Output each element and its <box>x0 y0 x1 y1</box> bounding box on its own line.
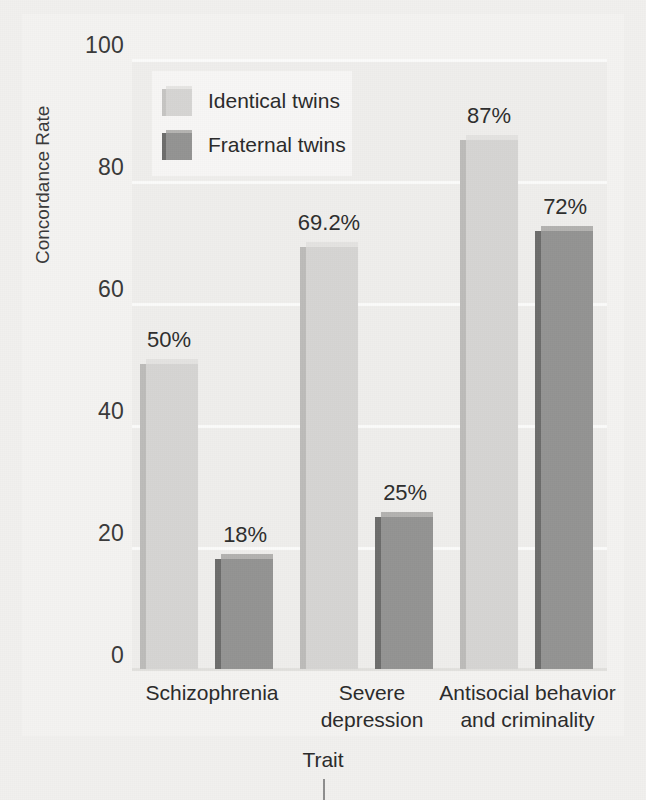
y-tick-100: 100 <box>85 32 124 59</box>
x-category-antisocial-behavior: Antisocial behavior and criminality <box>420 679 635 733</box>
bar-value-label: 50% <box>147 327 191 353</box>
legend-item-identical-twins[interactable]: Identical twins <box>162 79 342 123</box>
y-tick-0: 0 <box>111 642 124 669</box>
legend-label: Identical twins <box>208 89 340 113</box>
bar-face <box>381 517 433 669</box>
bar-value-label: 18% <box>223 522 267 548</box>
bar-antisocial-identical-twins[interactable]: 87% <box>460 135 518 669</box>
bar-face <box>146 364 198 669</box>
bar-schizophrenia-identical-twins[interactable]: 50% <box>140 359 198 669</box>
legend-swatch-icon-identical <box>162 86 192 116</box>
x-axis-title: Trait <box>0 748 646 772</box>
bar-face <box>541 231 593 669</box>
bar-value-label: 72% <box>543 194 587 220</box>
bar-face <box>221 559 273 669</box>
bar-severe-depression-fraternal-twins[interactable]: 25% <box>375 512 433 669</box>
y-tick-60: 60 <box>98 276 124 303</box>
y-tick-40: 40 <box>98 398 124 425</box>
bar-schizophrenia-fraternal-twins[interactable]: 18% <box>215 554 273 669</box>
bar-value-label: 69.2% <box>298 210 360 236</box>
bar-face <box>466 140 518 669</box>
scanned-page: 100 80 60 40 20 0 Concordance Rate <box>0 0 646 800</box>
bar-group-antisocial-behavior: 87% 72% <box>452 59 610 669</box>
legend-swatch-icon-fraternal <box>162 130 192 160</box>
bar-value-label: 25% <box>383 480 427 506</box>
legend-label: Fraternal twins <box>208 133 346 157</box>
x-category-schizophrenia: Schizophrenia <box>122 679 302 706</box>
legend: Identical twins Fraternal twins <box>152 71 352 176</box>
bar-value-label: 87% <box>467 103 511 129</box>
bar-face <box>306 247 358 669</box>
plot-area: 50% 18% 69.2% <box>132 59 607 669</box>
y-tick-20: 20 <box>98 520 124 547</box>
figure-area: 100 80 60 40 20 0 Concordance Rate <box>22 14 624 736</box>
bar-antisocial-fraternal-twins[interactable]: 72% <box>535 226 593 669</box>
bar-severe-depression-identical-twins[interactable]: 69.2% <box>300 242 358 669</box>
y-axis-title: Concordance Rate <box>32 0 54 264</box>
page-fold-mark <box>323 779 325 800</box>
legend-item-fraternal-twins[interactable]: Fraternal twins <box>162 123 342 167</box>
y-tick-80: 80 <box>98 154 124 181</box>
